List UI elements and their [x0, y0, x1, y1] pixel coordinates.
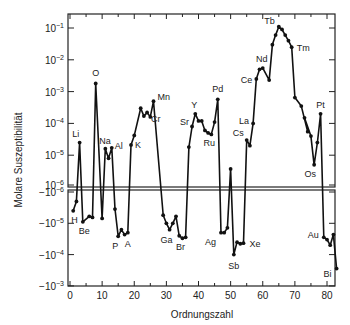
data-point	[161, 213, 165, 217]
element-label-sr: Sr	[180, 117, 189, 127]
data-point	[254, 77, 258, 81]
x-tick-label: 50	[225, 290, 237, 301]
data-point	[81, 220, 85, 224]
x-tick-label: 40	[193, 290, 205, 301]
element-label-h: H	[71, 215, 78, 225]
data-point	[245, 138, 249, 142]
element-label-tb: Tb	[264, 16, 275, 26]
y-tick-label: −10−3	[39, 280, 64, 292]
data-point	[129, 143, 133, 147]
y-tick-label: 10−2	[45, 54, 64, 66]
data-point	[181, 236, 185, 240]
element-label-bi: Bi	[324, 269, 332, 279]
element-label-pd: Pd	[212, 84, 223, 94]
data-point	[200, 119, 204, 123]
data-point	[248, 144, 252, 148]
data-point	[319, 112, 323, 116]
data-point	[91, 216, 95, 220]
data-point	[152, 99, 156, 103]
data-point	[315, 141, 319, 145]
element-label-os: Os	[304, 169, 316, 179]
upper-panel-frame	[68, 14, 335, 187]
data-point	[290, 45, 294, 49]
element-label-sb: Sb	[228, 261, 239, 271]
data-point	[293, 96, 297, 100]
data-point	[78, 141, 82, 145]
chart-canvas: 01020304050607080 10−110−210−310−410−510…	[0, 0, 350, 325]
data-point	[203, 129, 207, 133]
data-point	[251, 122, 255, 126]
data-point	[113, 207, 117, 211]
y-tick-label: 10−3	[45, 86, 64, 98]
data-point	[242, 241, 246, 245]
data-point	[213, 120, 217, 124]
data-point	[103, 147, 107, 151]
data-point	[193, 112, 197, 116]
data-point	[235, 240, 239, 244]
x-tick-label: 20	[129, 290, 141, 301]
data-point	[209, 133, 213, 137]
data-point	[306, 130, 310, 134]
data-point	[168, 228, 172, 232]
data-point	[139, 106, 143, 110]
data-point	[312, 163, 316, 167]
element-label-ru: Ru	[204, 138, 216, 148]
element-label-k: K	[135, 140, 141, 150]
x-axis-title: Ordnungszahl	[171, 309, 233, 320]
data-point	[123, 233, 127, 237]
element-label-ag: Ag	[205, 237, 216, 247]
data-point	[120, 228, 124, 232]
data-point	[280, 28, 284, 32]
data-point	[283, 33, 287, 37]
data-point	[322, 235, 326, 239]
y-axis-ticks: 10−110−210−310−410−510−6−10−6−10−5−10−4−…	[39, 22, 335, 292]
data-point	[332, 233, 336, 237]
data-point	[174, 214, 178, 218]
data-point	[145, 111, 149, 115]
element-label-au: Au	[308, 230, 319, 240]
element-label-pt: Pt	[316, 100, 325, 110]
element-label-nd: Nd	[256, 54, 268, 64]
element-label-p: P	[112, 241, 118, 251]
x-tick-label: 0	[67, 290, 73, 301]
x-tick-label: 80	[321, 290, 333, 301]
data-point	[287, 39, 291, 43]
data-point	[274, 33, 278, 37]
element-label-ce: Ce	[241, 75, 253, 85]
lower-panel-frame	[68, 190, 335, 286]
element-label-li: Li	[72, 129, 79, 139]
element-label-y: Y	[191, 100, 197, 110]
data-point	[303, 116, 307, 120]
y-tick-label: −10−6	[39, 186, 64, 198]
data-point	[216, 97, 220, 101]
data-point	[177, 234, 181, 238]
element-label-be: Be	[79, 226, 90, 236]
y-axis-title: Molare Suszeptibilität	[13, 112, 24, 207]
element-label-cs: Cs	[233, 128, 244, 138]
data-point	[229, 167, 233, 171]
element-label-la: La	[239, 116, 249, 126]
data-point	[325, 238, 329, 242]
element-label-a: A	[125, 239, 131, 249]
data-point	[100, 217, 104, 221]
data-point	[171, 221, 175, 225]
data-point	[94, 82, 98, 86]
x-tick-label: 30	[161, 290, 173, 301]
data-point	[270, 43, 274, 47]
data-point	[184, 235, 188, 239]
data-point	[107, 156, 111, 160]
data-point	[75, 200, 79, 204]
data-point	[187, 145, 191, 149]
data-point	[261, 66, 265, 70]
y-tick-label: −10−4	[39, 249, 64, 261]
data-point	[110, 146, 114, 150]
data-point	[164, 221, 168, 225]
data-point	[328, 243, 332, 247]
y-tick-label: 10−1	[45, 22, 64, 34]
data-point	[277, 25, 281, 29]
y-tick-label: 10−5	[45, 149, 64, 161]
data-point	[299, 104, 303, 108]
element-label-xe: Xe	[249, 239, 260, 249]
data-point	[142, 114, 146, 118]
data-point	[267, 78, 271, 82]
